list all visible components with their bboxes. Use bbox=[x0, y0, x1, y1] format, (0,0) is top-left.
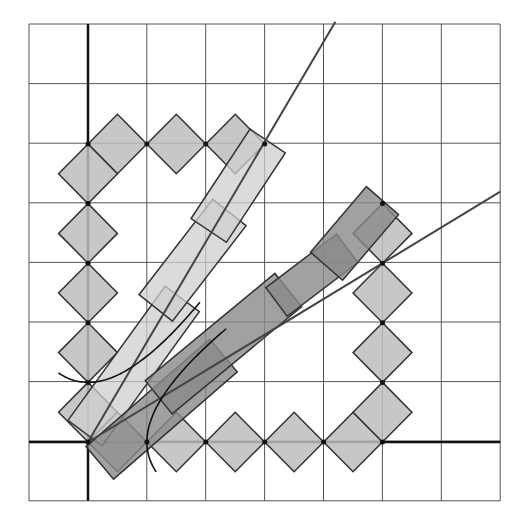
diamond-tile bbox=[265, 412, 324, 472]
lattice-point bbox=[86, 320, 91, 325]
lattice-point bbox=[203, 440, 208, 445]
lattice-point bbox=[86, 142, 91, 147]
lattice-point bbox=[262, 440, 267, 445]
diamond-tile bbox=[353, 323, 412, 383]
lattice-point bbox=[380, 261, 385, 266]
diamond-tile bbox=[59, 204, 118, 264]
lattice-point bbox=[203, 142, 208, 147]
diamond-tile bbox=[353, 263, 412, 323]
lattice-point bbox=[144, 142, 149, 147]
lattice-diagram bbox=[0, 0, 525, 521]
lattice-point bbox=[380, 320, 385, 325]
lattice-point bbox=[262, 142, 267, 147]
lattice-point bbox=[86, 380, 91, 385]
tiles bbox=[59, 114, 412, 479]
lattice-point bbox=[86, 261, 91, 266]
lattice-point bbox=[380, 201, 385, 206]
lattice-point bbox=[380, 440, 385, 445]
diamond-tile bbox=[59, 263, 118, 323]
diamond-tile bbox=[147, 114, 206, 174]
lattice-point bbox=[86, 201, 91, 206]
diamond-tile bbox=[206, 412, 265, 472]
lattice-point bbox=[380, 380, 385, 385]
lattice-point bbox=[321, 440, 326, 445]
lattice-point bbox=[86, 440, 91, 445]
lattice-point bbox=[144, 440, 149, 445]
